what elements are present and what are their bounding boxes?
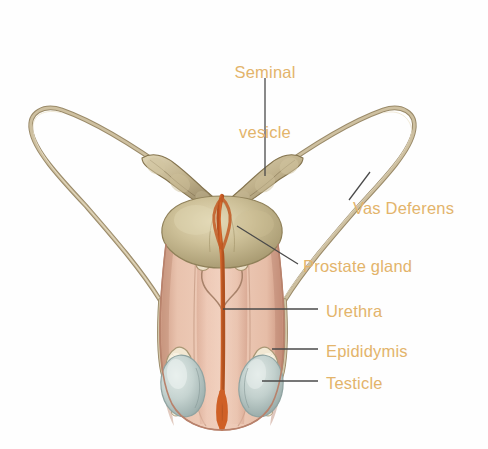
- label-vas-deferens: Vas Deferens: [353, 198, 454, 218]
- label-testicle: Testicle: [326, 373, 383, 393]
- diagram-canvas: Seminal vesicle Vas Deferens Prostate gl…: [0, 0, 488, 449]
- label-seminal-vesicle: Seminal vesicle: [206, 22, 324, 182]
- label-epididymis: Epididymis: [326, 341, 408, 361]
- label-urethra: Urethra: [326, 301, 382, 321]
- label-prostate-gland: Prostate gland: [303, 256, 412, 276]
- label-seminal-vesicle-line2: vesicle: [206, 122, 324, 142]
- label-seminal-vesicle-line1: Seminal: [206, 62, 324, 82]
